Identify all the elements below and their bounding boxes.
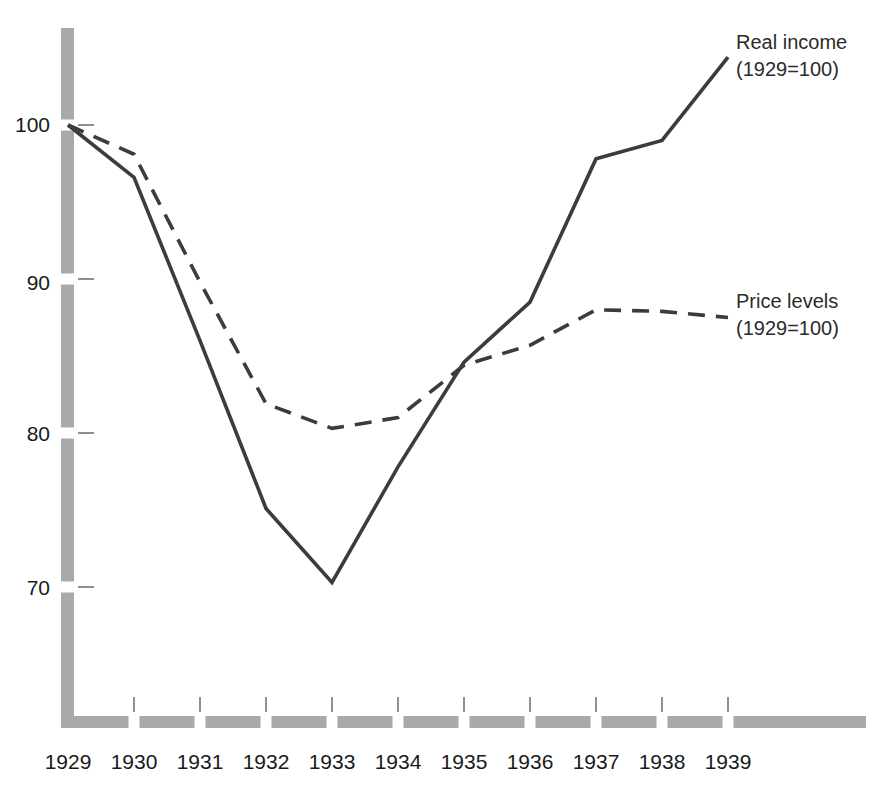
annotation-real-income: Real income (1929=100)	[736, 29, 847, 83]
annotation-real-income-line1: Real income	[736, 29, 847, 56]
annotation-price-levels-line2: (1929=100)	[736, 315, 839, 342]
y-axis-bar-segment	[61, 285, 74, 428]
x-axis-bar-segment	[61, 716, 129, 728]
y-axis-tick-marks	[78, 125, 94, 587]
x-axis-bar-segment	[734, 716, 867, 728]
x-axis-bar-segment	[206, 716, 261, 728]
annotation-price-levels: Price levels (1929=100)	[736, 288, 839, 342]
y-axis-bar-segment	[61, 28, 74, 120]
x-axis-bar-segment	[404, 716, 459, 728]
y-axis-bar-segment	[61, 439, 74, 582]
x-axis-bar-segment	[602, 716, 657, 728]
x-axis-bar-segment	[338, 716, 393, 728]
x-axis-bar-segment	[536, 716, 591, 728]
series-line-real-income	[68, 57, 728, 582]
annotation-price-levels-line1: Price levels	[736, 288, 839, 315]
x-axis-bar-segment	[470, 716, 525, 728]
y-tick-label-70: 70	[2, 576, 50, 600]
y-axis-bar	[61, 28, 74, 728]
x-axis-tick-marks	[134, 697, 728, 712]
x-axis-bar-segment	[272, 716, 327, 728]
chart-container: 100 90 80 70 1929 1930 1931 1932 1933 19…	[0, 0, 881, 789]
y-axis-bar-segment	[61, 593, 74, 729]
y-tick-label-100: 100	[2, 113, 50, 137]
chart-plot-area	[0, 0, 881, 789]
series-line-price-levels	[68, 125, 728, 428]
y-tick-label-90: 90	[2, 271, 50, 295]
x-axis-bar-segment	[140, 716, 195, 728]
x-axis-bar	[61, 716, 866, 728]
data-series-group	[68, 57, 728, 582]
x-tick-label-1939: 1939	[688, 750, 768, 774]
y-axis-bar-segment	[61, 131, 74, 274]
y-tick-label-80: 80	[2, 422, 50, 446]
x-axis-bar-segment	[668, 716, 723, 728]
annotation-real-income-line2: (1929=100)	[736, 56, 847, 83]
